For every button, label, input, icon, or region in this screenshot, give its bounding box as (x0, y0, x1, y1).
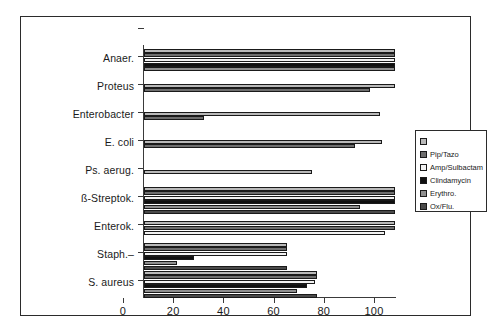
x-axis-tick (374, 298, 375, 303)
legend-swatch-icon (420, 164, 427, 171)
legend-item-label: Amp/Sulbactam (430, 163, 483, 172)
chart-legend: Pip/TazoAmp/SulbactamClindamycinErythro.… (415, 130, 487, 212)
bar (144, 243, 287, 247)
legend-item-label: Pip/Tazo (430, 150, 459, 159)
bar (144, 196, 395, 200)
y-axis-tick (138, 112, 144, 113)
x-axis-tick-label: 100 (354, 305, 394, 317)
legend-item[interactable]: Pip/Tazo (420, 148, 483, 160)
legend-swatch-icon (420, 177, 427, 184)
bar (144, 221, 395, 225)
y-axis-tick (138, 140, 144, 141)
y-axis-tick (138, 252, 144, 253)
bar (144, 284, 307, 288)
legend-item[interactable]: Ox/Flu. (420, 200, 483, 212)
bar (144, 187, 395, 191)
bar (144, 210, 395, 214)
chart-figure: Anaer.ProteusEnterobacterE. coliPs. aeru… (0, 0, 491, 333)
legend-swatch-icon (420, 151, 427, 158)
category-label: E. coli (105, 136, 134, 148)
bar (144, 84, 395, 88)
legend-item[interactable] (420, 135, 483, 147)
category-label: ß-Streptok. (81, 192, 134, 204)
y-axis-tick (138, 168, 144, 169)
legend-item[interactable]: Erythro. (420, 187, 483, 199)
category-axis-labels: Anaer.ProteusEnterobacterE. coliPs. aeru… (21, 45, 139, 297)
legend-swatch-icon (420, 190, 427, 197)
x-axis-tick (274, 298, 275, 303)
bar (144, 205, 360, 209)
x-axis-tick-label: 40 (203, 305, 243, 317)
bar (144, 116, 204, 120)
y-axis-tick (138, 224, 144, 225)
bar (144, 266, 287, 270)
bar (144, 58, 395, 62)
plot-area (144, 45, 395, 297)
bar (144, 275, 317, 279)
bar (144, 191, 395, 195)
bar (144, 252, 287, 256)
bar (144, 261, 177, 265)
bar (144, 231, 385, 235)
category-label: Enterok. (94, 220, 134, 232)
legend-swatch-icon (420, 203, 427, 210)
category-label: Enterobacter (73, 108, 134, 120)
category-label: Proteus (97, 80, 134, 92)
bar (144, 289, 297, 293)
y-axis-tick (138, 196, 144, 197)
legend-item[interactable]: Clindamycin (420, 174, 483, 186)
bar (144, 256, 194, 260)
bar (144, 226, 395, 230)
category-label: S. aureus (88, 276, 134, 288)
x-axis-tick (123, 298, 124, 303)
bar (144, 247, 287, 251)
legend-item-label: Erythro. (430, 189, 456, 198)
x-axis-tick-label: 60 (254, 305, 294, 317)
bar (144, 63, 395, 67)
legend-item-label: Clindamycin (430, 176, 471, 185)
bar (144, 294, 317, 298)
category-label: Ps. aerug. (85, 164, 134, 176)
bar (144, 112, 380, 116)
bar (144, 140, 382, 144)
bar (144, 53, 395, 57)
bar (144, 280, 315, 284)
x-axis-tick-label: 0 (103, 305, 143, 317)
x-axis-tick (223, 298, 224, 303)
bar (144, 200, 395, 204)
bar (144, 67, 395, 71)
bar (144, 49, 395, 53)
bar (144, 144, 355, 148)
figure-frame: Anaer.ProteusEnterobacterE. coliPs. aeru… (20, 16, 471, 316)
legend-item[interactable]: Amp/Sulbactam (420, 161, 483, 173)
legend-swatch-icon (420, 138, 427, 145)
bar (144, 88, 370, 92)
bar (144, 170, 312, 174)
x-axis-tick (173, 298, 174, 303)
y-axis-tick (138, 84, 144, 85)
bar (144, 271, 317, 275)
category-label: Anaer. (103, 52, 134, 64)
x-axis-tick (324, 298, 325, 303)
legend-item-label: Ox/Flu. (430, 202, 454, 211)
y-axis-tick (138, 56, 144, 57)
x-axis-tick-label: 20 (153, 305, 193, 317)
y-axis-tick (138, 280, 144, 281)
x-axis-tick-label: 80 (304, 305, 344, 317)
y-axis-tick (138, 28, 144, 29)
category-label: Staph.– (97, 248, 134, 260)
